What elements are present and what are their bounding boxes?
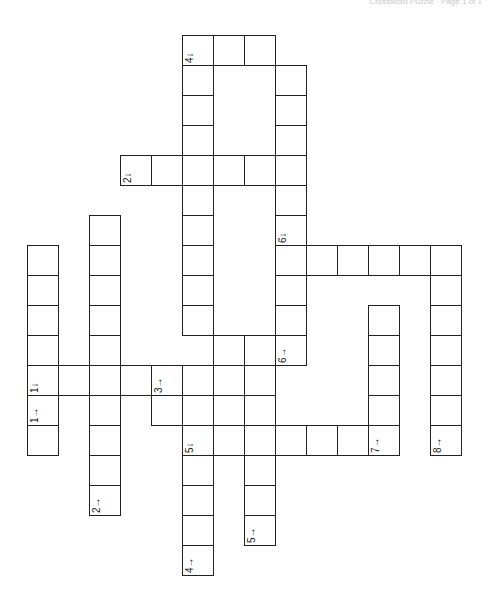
- crossword-cell[interactable]: 4→: [182, 545, 214, 576]
- crossword-cell[interactable]: [244, 485, 276, 516]
- crossword-cell[interactable]: [213, 335, 245, 366]
- crossword-cell[interactable]: [89, 275, 121, 306]
- crossword-cell[interactable]: [275, 125, 307, 156]
- crossword-cell[interactable]: 5→: [244, 515, 276, 546]
- crossword-cell[interactable]: [244, 395, 276, 426]
- crossword-cell[interactable]: 7→: [368, 425, 400, 456]
- crossword-cell[interactable]: [182, 485, 214, 516]
- crossword-cell[interactable]: [430, 335, 462, 366]
- crossword-cell[interactable]: [275, 245, 307, 276]
- crossword-cell[interactable]: [430, 395, 462, 426]
- crossword-cell[interactable]: [27, 275, 59, 306]
- crossword-cell[interactable]: [244, 155, 276, 186]
- crossword-cell[interactable]: [27, 245, 59, 276]
- crossword-cell[interactable]: [182, 395, 214, 426]
- crossword-cell[interactable]: [244, 365, 276, 396]
- crossword-cell[interactable]: [89, 335, 121, 366]
- crossword-cell[interactable]: [182, 185, 214, 216]
- crossword-cell[interactable]: [89, 305, 121, 336]
- crossword-cell[interactable]: [89, 395, 121, 426]
- crossword-cell[interactable]: [213, 155, 245, 186]
- crossword-cell[interactable]: [275, 65, 307, 96]
- crossword-cell[interactable]: [244, 425, 276, 456]
- clue-number-label: 6→: [278, 347, 288, 363]
- crossword-cell[interactable]: [182, 155, 214, 186]
- crossword-cell[interactable]: [275, 275, 307, 306]
- clue-number-label: 8→: [433, 437, 443, 453]
- crossword-cell[interactable]: [58, 365, 90, 396]
- crossword-cell[interactable]: [27, 335, 59, 366]
- clue-number-label: 7→: [371, 437, 381, 453]
- crossword-cell[interactable]: [89, 455, 121, 486]
- crossword-cell[interactable]: 3→: [151, 365, 183, 396]
- crossword-cell[interactable]: [275, 425, 307, 456]
- crossword-cell[interactable]: [89, 365, 121, 396]
- crossword-cell[interactable]: [89, 215, 121, 246]
- crossword-cell[interactable]: [182, 275, 214, 306]
- crossword-cell[interactable]: [213, 35, 245, 66]
- crossword-cell[interactable]: [182, 95, 214, 126]
- crossword-cell[interactable]: [368, 245, 400, 276]
- crossword-cell[interactable]: [430, 365, 462, 396]
- crossword-cell[interactable]: [275, 185, 307, 216]
- clue-number-label: 4↓: [185, 52, 195, 63]
- crossword-cell[interactable]: 6↓: [275, 215, 307, 246]
- crossword-cell[interactable]: [430, 305, 462, 336]
- crossword-cell[interactable]: [244, 35, 276, 66]
- crossword-cell[interactable]: [182, 245, 214, 276]
- crossword-cell[interactable]: [182, 365, 214, 396]
- crossword-cell[interactable]: [244, 455, 276, 486]
- clue-number-label: 2→: [92, 497, 102, 513]
- clue-number-label: 5↓: [185, 442, 195, 453]
- clue-number-label: 2↓: [123, 172, 133, 183]
- crossword-cell[interactable]: [306, 425, 338, 456]
- crossword-cell[interactable]: [275, 95, 307, 126]
- crossword-cell[interactable]: [337, 425, 369, 456]
- crossword-cell[interactable]: [368, 365, 400, 396]
- crossword-cell[interactable]: [120, 365, 152, 396]
- crossword-cell[interactable]: [89, 245, 121, 276]
- clue-number-label: 5→: [247, 527, 257, 543]
- crossword-cell[interactable]: [275, 305, 307, 336]
- crossword-cell[interactable]: [337, 245, 369, 276]
- crossword-cell[interactable]: 8→: [430, 425, 462, 456]
- clue-number-label: 1→: [30, 407, 40, 423]
- crossword-cell[interactable]: [182, 515, 214, 546]
- crossword-cell[interactable]: [213, 395, 245, 426]
- crossword-cell[interactable]: [213, 425, 245, 456]
- crossword-cell[interactable]: [213, 365, 245, 396]
- crossword-cell[interactable]: [89, 425, 121, 456]
- crossword-cell[interactable]: [27, 425, 59, 456]
- crossword-cell[interactable]: [368, 305, 400, 336]
- clue-number-label: 4→: [185, 557, 195, 573]
- crossword-cell[interactable]: [182, 215, 214, 246]
- crossword-grid: 4↓2↓6↓6→8→2→1↓1→3→7→5→5↓4→: [0, 0, 486, 598]
- crossword-cell[interactable]: 1↓: [27, 365, 59, 396]
- crossword-cell[interactable]: 2→: [89, 485, 121, 516]
- clue-number-label: 1↓: [30, 382, 40, 393]
- crossword-cell[interactable]: [182, 455, 214, 486]
- clue-number-label: 3→: [154, 377, 164, 393]
- crossword-cell[interactable]: [182, 65, 214, 96]
- crossword-cell[interactable]: [275, 155, 307, 186]
- crossword-cell[interactable]: [306, 245, 338, 276]
- crossword-cell[interactable]: [27, 305, 59, 336]
- crossword-cell[interactable]: [368, 335, 400, 366]
- crossword-cell[interactable]: [182, 125, 214, 156]
- crossword-cell[interactable]: 2↓: [120, 155, 152, 186]
- crossword-cell[interactable]: [430, 275, 462, 306]
- crossword-cell[interactable]: 5↓: [182, 425, 214, 456]
- crossword-cell[interactable]: [182, 305, 214, 336]
- crossword-cell[interactable]: [151, 155, 183, 186]
- crossword-cell[interactable]: 1→: [27, 395, 59, 426]
- clue-number-label: 6↓: [278, 232, 288, 243]
- crossword-cell[interactable]: 6→: [275, 335, 307, 366]
- crossword-cell[interactable]: 4↓: [182, 35, 214, 66]
- crossword-cell[interactable]: [430, 245, 462, 276]
- crossword-cell[interactable]: [151, 395, 183, 426]
- crossword-cell[interactable]: [244, 335, 276, 366]
- crossword-cell[interactable]: [368, 395, 400, 426]
- crossword-cell[interactable]: [399, 245, 431, 276]
